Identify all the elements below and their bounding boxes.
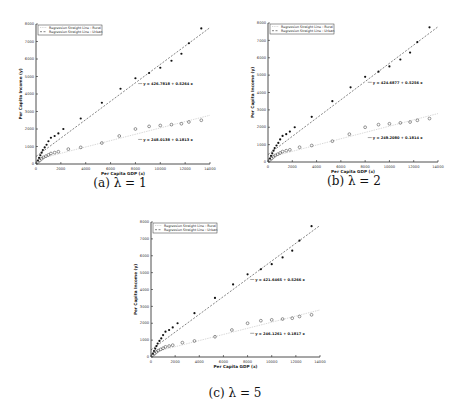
urban-data-point	[44, 146, 46, 148]
rural-data-point	[53, 151, 56, 154]
rural-data-point	[40, 157, 43, 160]
rural-data-point	[388, 122, 391, 125]
urban-data-point	[275, 144, 277, 146]
rural-data-point	[310, 313, 313, 316]
rural-data-point	[428, 117, 431, 120]
urban-data-point	[271, 152, 273, 154]
y-tick-label: 5000	[257, 73, 267, 77]
legend: Regression Straight Line : RuralRegressi…	[38, 25, 102, 35]
rural-data-point	[148, 125, 151, 128]
rural-data-point	[171, 344, 174, 347]
urban-data-point	[180, 53, 182, 55]
urban-data-point	[176, 322, 178, 324]
urban-data-point	[279, 138, 281, 140]
x-tick-label: 14000	[432, 165, 444, 169]
rural-data-point	[193, 340, 196, 343]
rural-data-point	[259, 319, 262, 322]
y-tick-label: 4000	[257, 91, 267, 95]
urban-data-point	[311, 116, 313, 118]
y-tick-label: 0	[147, 355, 150, 359]
y-tick-label: 8000	[25, 22, 35, 26]
y-axis-label: Per Capita Income (y)	[250, 67, 255, 118]
urban-data-point	[331, 100, 333, 102]
rural-data-point	[348, 133, 351, 136]
rural-data-point	[281, 150, 284, 153]
rural-data-point	[159, 124, 162, 127]
urban-data-point	[62, 128, 64, 130]
x-axis-label: Per Capita GDP (x)	[213, 364, 257, 369]
urban-data-point	[377, 71, 379, 73]
urban-data-point	[200, 27, 202, 29]
legend: Regression Straight Line : RuralRegressi…	[270, 24, 334, 34]
urban-data-point	[310, 225, 312, 227]
urban-data-point	[281, 256, 283, 258]
rural-data-point	[377, 123, 380, 126]
rural-data-point	[291, 317, 294, 320]
urban-data-point	[399, 58, 401, 60]
urban-data-point	[168, 329, 170, 331]
urban-data-point	[246, 273, 248, 275]
rural-data-point	[168, 345, 171, 348]
urban-data-point	[281, 135, 283, 137]
y-tick-label: 1000	[257, 143, 267, 147]
rural-equation-label: y = 248.0138 + 0.1813 x	[143, 138, 193, 142]
chart-panel-b: 0200040006000800010000120001400001000200…	[234, 0, 468, 200]
urban-data-point	[57, 132, 59, 134]
chart-panel-a: 0200040006000800010000120001400001000200…	[0, 0, 234, 200]
rural-data-point	[230, 329, 233, 332]
urban-equation-label: y = 426.7818 + 0.5264 x	[143, 82, 193, 86]
scatter-plot-a: 0200040006000800010000120001400001000200…	[0, 0, 234, 200]
y-tick-label: 1000	[140, 338, 150, 342]
rural-data-point	[164, 345, 167, 348]
rural-data-point	[187, 121, 190, 124]
x-tick-label: 4000	[81, 167, 91, 171]
x-tick-label: 0	[35, 167, 38, 171]
x-tick-label: 2000	[171, 360, 181, 364]
rural-data-point	[416, 119, 419, 122]
y-tick-label: 6000	[257, 56, 267, 60]
urban-data-point	[349, 86, 351, 88]
legend: Regression Straight Line : RuralRegressi…	[153, 223, 217, 233]
urban-data-point	[159, 67, 161, 69]
rural-data-point	[288, 148, 291, 151]
rural-data-point	[298, 146, 301, 149]
urban-data-point	[50, 137, 52, 139]
y-tick-label: 2000	[25, 127, 35, 131]
urban-data-point	[45, 144, 47, 146]
urban-data-point	[170, 60, 172, 62]
rural-data-point	[200, 119, 203, 122]
urban-data-point	[274, 147, 276, 149]
urban-data-point	[388, 65, 390, 67]
urban-data-point	[80, 117, 82, 119]
y-tick-label: 0	[264, 160, 267, 164]
y-tick-label: 2000	[257, 125, 267, 129]
scatter-plot-b: 0200040006000800010000120001400001000200…	[234, 0, 468, 200]
rural-data-point	[399, 122, 402, 125]
urban-equation-label: y = 421.6465 + 0.5266 x	[255, 278, 305, 282]
x-tick-label: 10000	[155, 167, 167, 171]
urban-data-point	[188, 42, 190, 44]
rural-data-point	[181, 341, 184, 344]
rural-data-point	[285, 149, 288, 152]
urban-data-point	[291, 250, 293, 252]
y-tick-label: 7000	[257, 39, 267, 43]
y-tick-label: 8000	[140, 220, 150, 224]
urban-data-point	[271, 263, 273, 265]
urban-data-point	[157, 342, 159, 344]
y-axis-label: Per Capita Income (y)	[133, 264, 138, 315]
x-tick-label: 10000	[384, 165, 396, 169]
urban-data-point	[160, 337, 162, 339]
caption-b: (b) λ = 2	[294, 174, 414, 188]
x-tick-label: 0	[267, 165, 270, 169]
urban-data-point	[148, 72, 150, 74]
y-axis-label: Per Capita Income (y)	[18, 68, 23, 119]
chart-panel-c: 0200040006000800010000120001400001000200…	[110, 200, 350, 412]
urban-data-point	[47, 140, 49, 142]
rural-data-point	[50, 152, 53, 155]
y-tick-label: 7000	[25, 40, 35, 44]
y-tick-label: 3000	[140, 305, 150, 309]
x-tick-label: 4000	[195, 360, 205, 364]
x-tick-label: 14000	[204, 167, 216, 171]
urban-data-point	[364, 76, 366, 78]
urban-data-point	[260, 268, 262, 270]
